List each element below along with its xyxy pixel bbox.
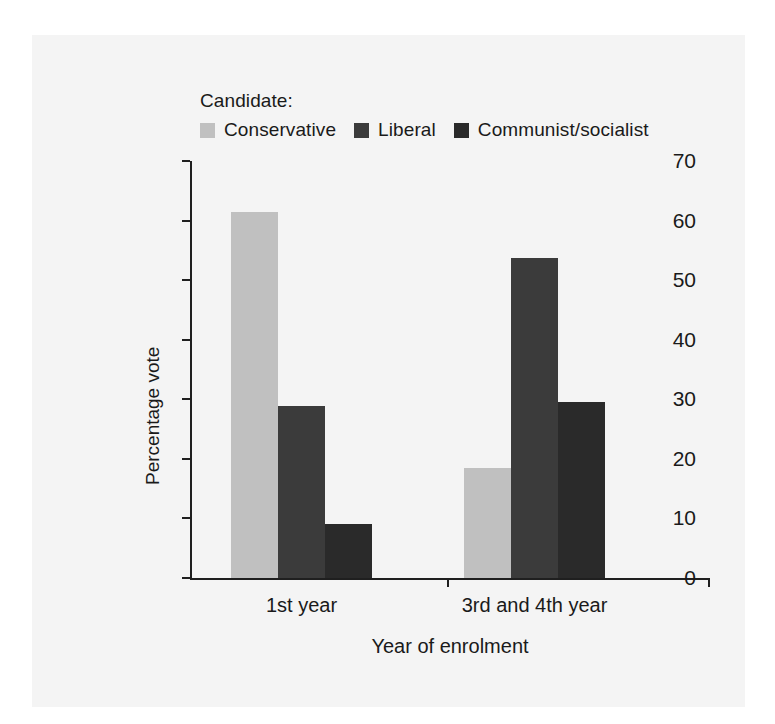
x-tick-mark xyxy=(447,578,449,587)
legend-items: ConservativeLiberalCommunist/socialist xyxy=(200,119,720,141)
y-tick-mark xyxy=(182,279,190,281)
bar xyxy=(325,524,372,578)
y-tick-mark xyxy=(182,160,190,162)
bar xyxy=(511,258,558,578)
bar xyxy=(278,406,325,578)
bar xyxy=(231,212,278,578)
y-tick-label: 60 xyxy=(673,209,696,233)
y-tick-mark xyxy=(182,517,190,519)
plot-area: 010203040506070 1st year3rd and 4th year xyxy=(190,161,710,578)
y-axis-title: Percentage vote xyxy=(142,347,164,485)
y-tick-mark xyxy=(182,458,190,460)
legend-swatch-icon xyxy=(354,123,369,138)
chart-legend: Candidate: ConservativeLiberalCommunist/… xyxy=(200,90,720,141)
legend-swatch-icon xyxy=(454,123,469,138)
x-category-label: 1st year xyxy=(266,594,337,617)
y-tick-mark xyxy=(182,339,190,341)
y-tick-label: 40 xyxy=(673,328,696,352)
legend-item-conservative: Conservative xyxy=(200,119,354,141)
bar xyxy=(464,468,511,578)
y-tick-mark xyxy=(182,398,190,400)
y-tick-label: 30 xyxy=(673,387,696,411)
y-axis-line xyxy=(190,161,192,579)
x-axis-line xyxy=(190,578,710,580)
y-tick-label: 0 xyxy=(684,566,696,590)
legend-label: Liberal xyxy=(378,119,436,141)
bar xyxy=(558,402,605,578)
legend-item-liberal: Liberal xyxy=(354,119,454,141)
bar-chart-figure: Candidate: ConservativeLiberalCommunist/… xyxy=(32,35,745,707)
y-tick-mark xyxy=(182,220,190,222)
x-axis-title: Year of enrolment xyxy=(190,635,710,658)
x-axis-end-cap xyxy=(708,578,710,587)
legend-swatch-icon xyxy=(200,123,215,138)
y-tick-label: 70 xyxy=(673,149,696,173)
y-tick-label: 50 xyxy=(673,268,696,292)
legend-label: Communist/socialist xyxy=(478,119,649,141)
y-tick-mark xyxy=(182,577,190,579)
legend-title: Candidate: xyxy=(200,90,720,112)
y-tick-label: 10 xyxy=(673,506,696,530)
legend-item-communist-socialist: Communist/socialist xyxy=(454,119,667,141)
x-category-label: 3rd and 4th year xyxy=(462,594,608,617)
legend-label: Conservative xyxy=(224,119,336,141)
y-tick-label: 20 xyxy=(673,447,696,471)
